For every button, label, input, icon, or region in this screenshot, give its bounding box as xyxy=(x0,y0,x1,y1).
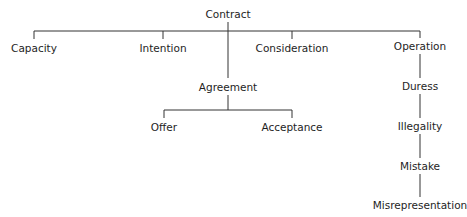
node-contract: Contract xyxy=(205,9,250,20)
node-illegality: Illegality xyxy=(398,121,443,132)
contract-tree-diagram: Contract Capacity Intention Consideratio… xyxy=(0,0,467,217)
node-operation: Operation xyxy=(394,41,446,52)
node-capacity: Capacity xyxy=(11,43,57,54)
node-misrepresentation: Misrepresentation xyxy=(373,200,467,211)
node-acceptance: Acceptance xyxy=(261,122,322,133)
connector-lines xyxy=(0,0,467,217)
node-offer: Offer xyxy=(151,122,177,133)
node-intention: Intention xyxy=(139,43,186,54)
node-agreement: Agreement xyxy=(199,82,257,93)
node-consideration: Consideration xyxy=(256,43,329,54)
node-mistake: Mistake xyxy=(400,161,440,172)
node-duress: Duress xyxy=(402,81,438,92)
